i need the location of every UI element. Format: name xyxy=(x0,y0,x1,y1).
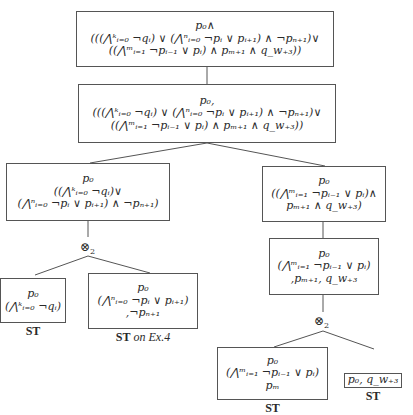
st-label: ST xyxy=(217,401,328,415)
formula-line: (⋀ᵐᵢ₌₁ ¬pᵢ₋₁ ∨ pᵢ) xyxy=(226,367,319,380)
leaf-node-q: p₀ (⋀ᵏᵢ₌₀ ¬qᵢ) xyxy=(0,278,66,323)
formula-line: p₀ xyxy=(27,288,38,301)
otimes-subscript: 2 xyxy=(324,321,329,330)
formula-line: ((⋀ᵐᵢ₌₁ ¬pᵢ₋₁ ∨ pᵢ) ∧ pₘ₊₁ ∧ q_w₊₃)) xyxy=(109,45,301,58)
otimes-subscript: 2 xyxy=(90,247,95,256)
formula-line: (((⋀ᵏᵢ₌₀ ¬qᵢ) ∨ (⋀ⁿᵢ₌₀ ¬pᵢ ∨ pᵢ₊₁) ∧ ¬pₙ… xyxy=(93,107,322,120)
formula-line: pₘ xyxy=(266,380,280,393)
left-branch-node: p₀ ((⋀ᵏᵢ₌₀ ¬qᵢ)∨ (⋀ⁿᵢ₌₀ ¬pᵢ ∨ pᵢ₊₁) ∧ ¬p… xyxy=(6,163,170,221)
leaf-node-qw: p₀, q_w₊₃ xyxy=(344,373,402,388)
st-label: ST xyxy=(344,389,402,404)
split-formula-node: p₀, (((⋀ᵏᵢ₌₀ ¬qᵢ) ∨ (⋀ⁿᵢ₌₀ ¬pᵢ ∨ pᵢ₊₁) ∧… xyxy=(78,84,336,143)
formula-line: p₀∧ xyxy=(195,20,215,33)
otimes-symbol: ⊗ xyxy=(80,240,90,254)
formula-line: p₀ xyxy=(82,173,93,186)
formula-line: (⋀ⁿᵢ₌₀ ¬pᵢ ∨ pᵢ₊₁) ∧ ¬pₙ₊₁) xyxy=(17,198,158,211)
leaf-node-p: p₀ (⋀ⁿᵢ₌₀ ¬pᵢ ∨ pᵢ₊₁) ,¬pₙ₊₁ xyxy=(88,273,198,329)
formula-line: p₀ xyxy=(318,175,329,188)
formula-line: ,pₘ₊₁, q_w₊₃ xyxy=(291,273,358,286)
right-branch-node: p₀ ((⋀ᵐᵢ₌₁ ¬pᵢ₋₁ ∨ pᵢ)∧ pₘ₊₁ ∧ q_w₊₃) xyxy=(262,166,386,222)
root-formula-node: p₀∧ (((⋀ᵏᵢ₌₀ ¬qᵢ) ∨ (⋀ⁿᵢ₌₀ ¬pᵢ ∨ pᵢ₊₁) ∧… xyxy=(76,11,334,67)
st-on-example-label: STon Ex.4 xyxy=(88,330,198,345)
formula-line: ((⋀ᵐᵢ₌₁ ¬pᵢ₋₁ ∨ pᵢ) ∧ pₘ₊₁ ∧ q_w₊₃)) xyxy=(111,120,303,133)
formula-line: pₘ₊₁ ∧ q_w₊₃) xyxy=(286,200,362,213)
leaf-node-pm: p₀ (⋀ᵐᵢ₌₁ ¬pᵢ₋₁ ∨ pᵢ) pₘ xyxy=(217,347,328,400)
formula-line: p₀ xyxy=(137,282,148,295)
formula-line: (⋀ᵏᵢ₌₀ ¬qᵢ) xyxy=(5,301,61,314)
otimes-operator-left: ⊗2 xyxy=(80,240,95,256)
right-subbranch-node: p₀ (⋀ᵐᵢ₌₁ ¬pᵢ₋₁ ∨ pᵢ) ,pₘ₊₁, q_w₊₃ xyxy=(269,238,379,295)
formula-line: ,¬pₙ₊₁ xyxy=(126,307,160,320)
formula-line: p₀, q_w₊₃ xyxy=(348,374,399,387)
otimes-operator-right: ⊗2 xyxy=(314,314,329,330)
formula-line: (⋀ᵐᵢ₌₁ ¬pᵢ₋₁ ∨ pᵢ) xyxy=(277,260,370,273)
st-label: ST xyxy=(0,324,66,339)
otimes-symbol: ⊗ xyxy=(314,314,324,328)
